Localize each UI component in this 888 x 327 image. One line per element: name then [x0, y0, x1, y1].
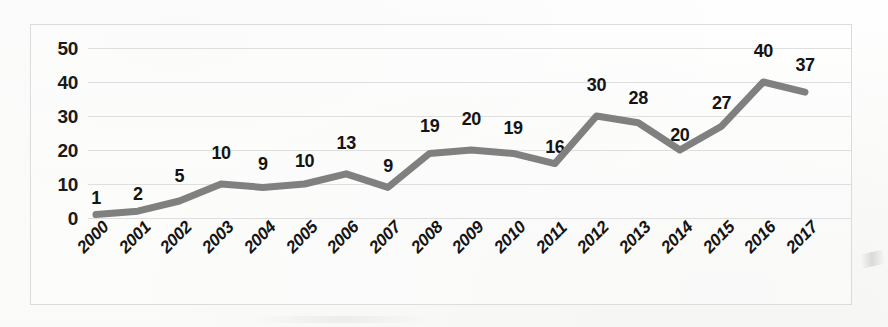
y-tick-label-20: 20	[38, 141, 78, 160]
x-tick-label-2013: 2013	[616, 218, 654, 256]
x-tick-label-2011: 2011	[533, 219, 570, 256]
gridline-y-20	[88, 150, 852, 151]
x-tick-label-2014: 2014	[658, 218, 696, 256]
x-tick-label-2004: 2004	[241, 218, 279, 256]
chart-plot-area: 01020304050 2000200120022003200420052006…	[0, 0, 888, 327]
data-label-2014: 20	[670, 126, 689, 144]
data-label-2012: 30	[587, 76, 606, 94]
y-tick-label-50: 50	[38, 39, 78, 58]
y-tick-label-10: 10	[38, 175, 78, 194]
x-tick-label-2008: 2008	[408, 218, 446, 256]
data-label-2009: 20	[462, 110, 481, 128]
data-label-2000: 1	[91, 189, 101, 207]
y-tick-label-40: 40	[38, 73, 78, 92]
x-tick-label-2015: 2015	[700, 218, 738, 256]
gridline-y-0	[88, 218, 852, 219]
x-tick-label-2003: 2003	[199, 218, 237, 256]
data-label-2004: 9	[258, 155, 268, 173]
data-label-2010: 19	[503, 119, 522, 137]
data-label-2015: 27	[712, 94, 731, 112]
data-label-2016: 40	[754, 42, 773, 60]
data-label-2002: 5	[175, 167, 185, 185]
data-label-2008: 19	[420, 117, 439, 135]
x-tick-label-2000: 2000	[74, 218, 112, 256]
gridline-y-40	[88, 82, 852, 83]
chart-screenshot: 01020304050 2000200120022003200420052006…	[0, 0, 888, 327]
x-tick-label-2012: 2012	[574, 218, 612, 256]
data-label-2011: 16	[545, 138, 564, 156]
gridline-y-50	[88, 48, 852, 49]
x-tick-label-2006: 2006	[324, 218, 362, 256]
x-tick-label-2016: 2016	[741, 218, 779, 256]
data-label-2017: 37	[795, 56, 814, 74]
data-label-2007: 9	[383, 157, 393, 175]
data-label-2013: 28	[629, 89, 648, 107]
x-tick-label-2005: 2005	[283, 218, 321, 256]
data-label-2006: 13	[337, 134, 356, 152]
data-label-2003: 10	[211, 144, 230, 162]
y-tick-label-0: 0	[38, 209, 78, 228]
y-tick-label-30: 30	[38, 107, 78, 126]
gridline-y-10	[88, 184, 852, 185]
x-tick-label-2002: 2002	[157, 218, 195, 256]
data-label-2005: 10	[295, 152, 314, 170]
data-label-2001: 2	[133, 185, 143, 203]
x-tick-label-2009: 2009	[449, 218, 487, 256]
x-tick-label-2007: 2007	[366, 218, 404, 256]
x-tick-label-2017: 2017	[783, 218, 821, 256]
x-tick-label-2001: 2001	[116, 218, 154, 256]
x-tick-label-2010: 2010	[491, 218, 529, 256]
